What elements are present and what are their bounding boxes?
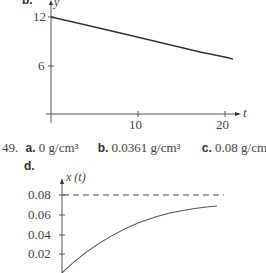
curve-x (62, 206, 217, 273)
x-t-axis-label: x (t) (66, 170, 86, 185)
y-tick-6: 6 (38, 58, 45, 74)
answer-c: 0.08 g/cm³ (215, 140, 266, 155)
y-tick-12: 12 (33, 9, 46, 25)
tick-0.02: 0.02 (28, 246, 51, 262)
part-d-label: d. (24, 159, 35, 173)
x-axis-arrow-icon (235, 112, 241, 116)
chart-b (46, 0, 241, 123)
x-axis-label: t (243, 105, 247, 121)
part-b-label: b. (22, 0, 33, 7)
answers-row: 49. a. 0 g/cm³ b. 0.0361 g/cm³ c. 0.08 g… (2, 140, 266, 156)
problem-number: 49. (2, 140, 18, 155)
x-tick-20: 20 (216, 117, 229, 133)
answer-a: 0 g/cm³ (39, 140, 79, 155)
tick-0.04: 0.04 (28, 227, 51, 243)
chart-d (59, 178, 224, 273)
x-tick-10: 10 (129, 117, 142, 133)
y-axis-label: y (54, 0, 59, 10)
y-axis-arrow-icon (49, 0, 53, 5)
tick-0.08: 0.08 (28, 187, 51, 203)
y-axis-2-arrow-icon (60, 178, 64, 184)
tick-0.06: 0.06 (28, 207, 51, 223)
curve-y (51, 17, 233, 59)
answer-b: 0.0361 g/cm³ (112, 140, 181, 155)
